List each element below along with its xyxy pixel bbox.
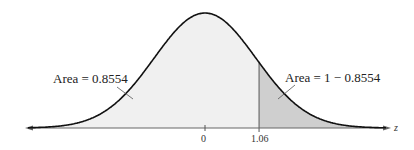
tick-label-z: 1.06 (251, 134, 269, 144)
axis-variable-label: z (394, 123, 398, 133)
tick-label-zero: 0 (201, 134, 206, 144)
left-area-label: Area = 0.8554 (53, 72, 128, 85)
right-area-label: Area = 1 − 0.8554 (285, 71, 380, 84)
